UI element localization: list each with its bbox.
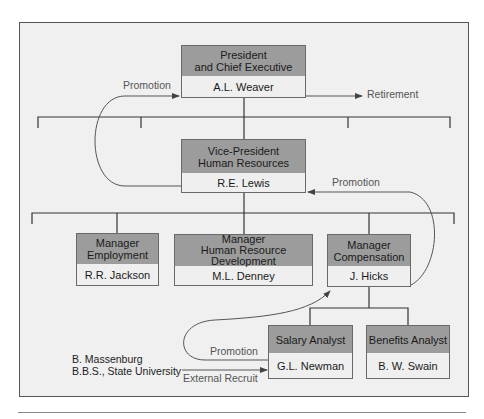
- external-recruit-label: External Recruit: [183, 372, 258, 384]
- mgr-hrd-title: Manager Human Resource Development: [175, 235, 312, 266]
- salary-analyst-name: G.L. Newman: [269, 353, 352, 378]
- retirement-label: Retirement: [367, 88, 418, 100]
- title-line: Vice-President: [208, 145, 279, 157]
- title-line: and Chief Executive: [195, 61, 293, 73]
- mgr-hrd-box: Manager Human Resource Development M.L. …: [174, 234, 313, 286]
- president-name: A.L. Weaver: [182, 76, 305, 97]
- vp-hr-name: R.E. Lewis: [182, 173, 305, 192]
- vp-hr-box: Vice-President Human Resources R.E. Lewi…: [181, 139, 306, 193]
- benefits-analyst-title: Benefits Analyst: [367, 326, 449, 353]
- president-box: President and Chief Executive A.L. Weave…: [181, 45, 306, 98]
- mgr-employment-box: Manager Employment R.R. Jackson: [76, 233, 159, 286]
- title-line: Employment: [87, 249, 148, 261]
- title-line: Benefits Analyst: [369, 334, 447, 346]
- title-line: Compensation: [334, 251, 405, 263]
- recruit-name: B. Massenburg: [72, 353, 143, 365]
- salary-analyst-box: Salary Analyst G.L. Newman: [268, 325, 353, 379]
- promotion-bottom-label: Promotion: [210, 345, 258, 357]
- bottom-separator: [18, 412, 466, 413]
- salary-analyst-title: Salary Analyst: [269, 326, 352, 353]
- mgr-compensation-box: Manager Compensation J. Hicks: [327, 234, 411, 287]
- benefits-analyst-box: Benefits Analyst B. W. Swain: [366, 325, 450, 379]
- mgr-employment-title: Manager Employment: [77, 234, 158, 264]
- recruit-credential: B.B.S., State University: [72, 365, 181, 377]
- title-line: Salary Analyst: [276, 334, 346, 346]
- title-line: Manager: [347, 239, 390, 251]
- benefits-analyst-name: B. W. Swain: [367, 353, 449, 378]
- mgr-compensation-name: J. Hicks: [328, 266, 410, 286]
- president-title: President and Chief Executive: [182, 46, 305, 76]
- promotion-top-label: Promotion: [123, 79, 171, 91]
- title-line: Human Resources: [198, 157, 289, 169]
- title-line: President: [220, 49, 266, 61]
- mgr-hrd-name: M.L. Denney: [175, 266, 312, 285]
- vp-hr-title: Vice-President Human Resources: [182, 140, 305, 173]
- title-line: Manager: [96, 237, 139, 249]
- mgr-compensation-title: Manager Compensation: [328, 235, 410, 266]
- promotion-right-label: Promotion: [332, 176, 380, 188]
- mgr-employment-name: R.R. Jackson: [77, 264, 158, 285]
